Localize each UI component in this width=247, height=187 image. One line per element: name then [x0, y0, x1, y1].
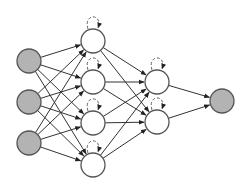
- input-neuron: [17, 131, 41, 155]
- connection-arrow: [105, 122, 144, 123]
- hidden-1-neuron: [81, 153, 105, 177]
- connection-arrow: [40, 127, 80, 140]
- recurrent-loop-arrow: [87, 141, 99, 153]
- connection-arrow: [169, 85, 210, 97]
- connection-arrow: [168, 105, 209, 118]
- connection-arrow: [103, 88, 146, 115]
- recurrent-loop-arrow: [87, 17, 99, 29]
- input-neuron: [17, 90, 41, 114]
- recurrent-loop-arrow: [151, 98, 163, 110]
- hidden-1-neuron: [81, 29, 105, 53]
- hidden-1-neuron: [81, 111, 105, 135]
- neural-network-diagram: [0, 0, 247, 187]
- connection-arrow: [35, 52, 86, 133]
- network-canvas: [0, 0, 247, 187]
- connections: [35, 45, 209, 161]
- recurrent-loop-arrow: [151, 58, 163, 70]
- hidden-2-neuron: [145, 70, 169, 94]
- recurrent-loop-arrow: [87, 99, 99, 111]
- hidden-1-neuron: [81, 70, 105, 94]
- connection-arrow: [103, 89, 146, 117]
- output-neuron: [210, 89, 234, 113]
- neurons: [17, 29, 234, 177]
- hidden-2-neuron: [145, 110, 169, 134]
- connection-arrow: [40, 45, 80, 58]
- connection-arrow: [40, 147, 80, 161]
- input-neuron: [17, 49, 41, 73]
- recurrent-loop-arrow: [87, 58, 99, 70]
